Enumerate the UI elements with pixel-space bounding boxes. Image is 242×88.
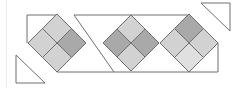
diamond-block-1 <box>28 14 86 72</box>
diamond-block-2 <box>103 15 159 71</box>
bottom-left-triangle <box>16 55 45 83</box>
diamond-block-3 <box>160 14 218 72</box>
quilt-pattern-diagram <box>0 0 242 88</box>
top-right-triangle <box>201 3 230 31</box>
